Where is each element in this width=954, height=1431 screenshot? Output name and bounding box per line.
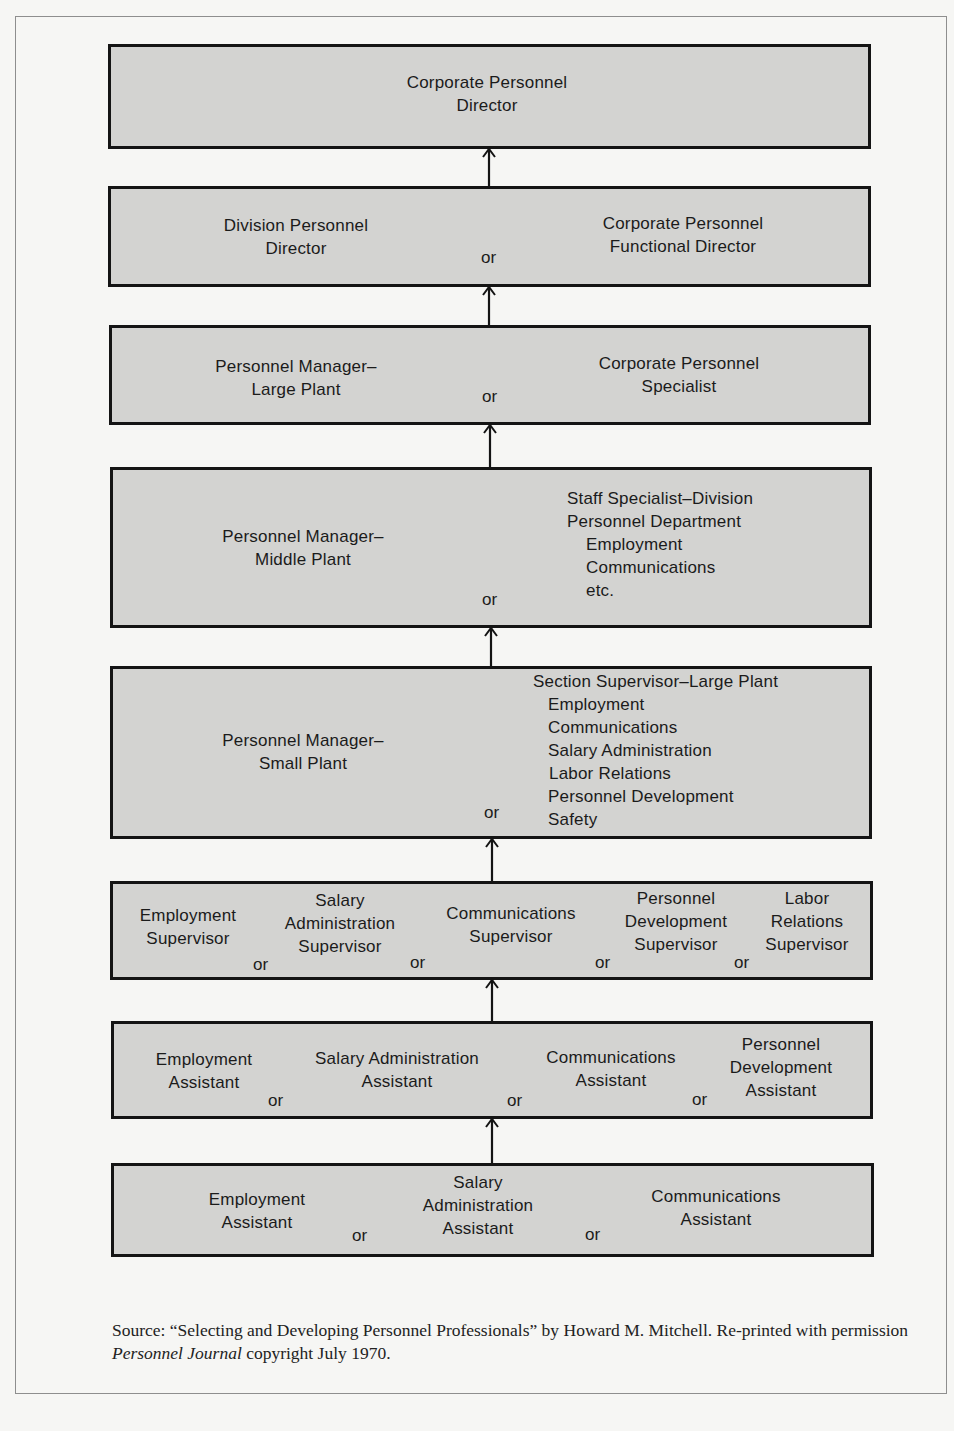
or-connector: or xyxy=(692,1090,707,1110)
arrow-up-icon xyxy=(482,1117,502,1164)
position-personnel-manager-large-plant: Personnel Manager– Large Plant xyxy=(215,355,376,401)
position-corporate-personnel-specialist: Corporate Personnel Specialist xyxy=(599,352,760,398)
or-connector: or xyxy=(484,803,499,823)
position-salary-administration-supervisor: Salary Administration Supervisor xyxy=(285,889,396,958)
position-corporate-personnel-director: Corporate Personnel Director xyxy=(407,71,568,117)
or-connector: or xyxy=(595,953,610,973)
source-caption: Source: “Selecting and Developing Person… xyxy=(112,1319,912,1365)
arrow-up-icon xyxy=(479,285,499,326)
position-personnel-development-assistant: Personnel Development Assistant xyxy=(730,1033,832,1102)
position-salary-administration-assistant: Salary Administration Assistant xyxy=(315,1047,479,1093)
position-salary-administration-assistant-entry: Salary Administration Assistant xyxy=(423,1171,534,1240)
arrow-up-icon xyxy=(480,423,500,468)
position-personnel-manager-middle-plant: Personnel Manager– Middle Plant xyxy=(222,525,383,571)
position-communications-assistant-entry: Communications Assistant xyxy=(651,1185,780,1231)
position-employment-supervisor: Employment Supervisor xyxy=(140,904,236,950)
position-section-supervisor-large-plant: Section Supervisor–Large Plant Employmen… xyxy=(533,670,778,831)
position-personnel-development-supervisor: Personnel Development Supervisor xyxy=(625,887,727,956)
position-corporate-personnel-functional-director: Corporate Personnel Functional Director xyxy=(603,212,764,258)
position-employment-assistant: Employment Assistant xyxy=(156,1048,252,1094)
arrow-up-icon xyxy=(479,147,499,187)
position-employment-assistant-entry: Employment Assistant xyxy=(209,1188,305,1234)
position-communications-supervisor: Communications Supervisor xyxy=(446,902,575,948)
position-personnel-manager-small-plant: Personnel Manager– Small Plant xyxy=(222,729,383,775)
or-connector: or xyxy=(268,1091,283,1111)
or-connector: or xyxy=(352,1226,367,1246)
position-staff-specialist-division: Staff Specialist–Division Personnel Depa… xyxy=(567,487,753,602)
or-connector: or xyxy=(482,590,497,610)
journal-name: Personnel Journal xyxy=(112,1343,242,1363)
or-connector: or xyxy=(585,1225,600,1245)
or-connector: or xyxy=(507,1091,522,1111)
position-division-personnel-director: Division Personnel Director xyxy=(224,214,368,260)
arrow-up-icon xyxy=(482,837,502,882)
arrow-up-icon xyxy=(481,626,501,668)
or-connector: or xyxy=(734,953,749,973)
position-communications-assistant: Communications Assistant xyxy=(546,1046,675,1092)
or-connector: or xyxy=(482,387,497,407)
or-connector: or xyxy=(253,955,268,975)
arrow-up-icon xyxy=(482,978,502,1022)
or-connector: or xyxy=(481,248,496,268)
position-labor-relations-supervisor: Labor Relations Supervisor xyxy=(765,887,848,956)
or-connector: or xyxy=(410,953,425,973)
